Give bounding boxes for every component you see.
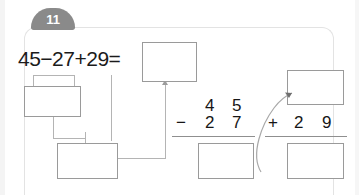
answer-box-result[interactable] — [142, 42, 197, 82]
addend-tens-digit: 2 — [294, 113, 303, 133]
connector-step1-across — [53, 138, 86, 139]
answer-box-carry[interactable] — [287, 70, 344, 105]
subtraction-operator: − — [176, 113, 186, 133]
answer-box-step1[interactable] — [24, 86, 81, 117]
grouping-bracket-left-tick — [33, 75, 34, 86]
page-edge-right — [355, 0, 359, 195]
subtraction-rule-line — [172, 136, 255, 137]
exercise-number-badge: 11 — [31, 8, 75, 30]
page-edge-left — [0, 0, 5, 195]
addition-rule-line — [265, 136, 347, 137]
connector-step2-across — [118, 158, 166, 159]
grouping-bracket-right-tick — [74, 75, 75, 86]
exercise-number-label: 11 — [31, 12, 75, 27]
grouping-bracket-top — [33, 75, 75, 76]
answer-box-sum[interactable] — [287, 143, 344, 179]
connector-result-up — [165, 84, 166, 159]
worksheet-page: 11 45−27+29= − 4 5 2 7 + 2 9 — [0, 0, 359, 195]
addition-operator: + — [268, 113, 278, 133]
subtrahend-tens-digit: 2 — [205, 113, 214, 133]
answer-box-step2[interactable] — [57, 143, 118, 179]
connector-step1-down — [53, 117, 54, 139]
subtrahend-ones-digit: 7 — [232, 113, 241, 133]
connector-step1-into-step2 — [85, 132, 86, 143]
equation-expression: 45−27+29= — [18, 47, 120, 71]
answer-box-difference[interactable] — [198, 143, 254, 179]
connector-addend-down — [111, 75, 112, 141]
addend-ones-digit: 9 — [322, 113, 331, 133]
